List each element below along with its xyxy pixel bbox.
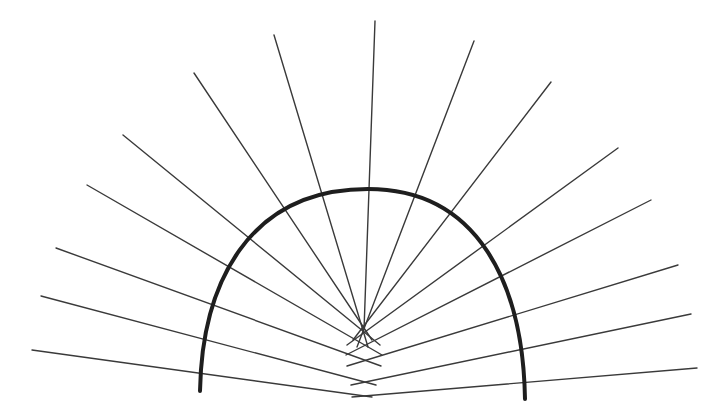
ray-diagram (0, 0, 724, 420)
diagram-canvas (0, 0, 724, 420)
background (0, 0, 724, 420)
